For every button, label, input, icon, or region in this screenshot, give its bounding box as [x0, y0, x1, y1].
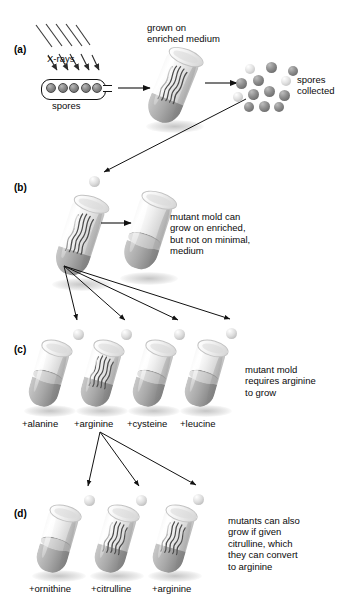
tube-label-citrulline: +citrulline [91, 583, 131, 594]
spore-panel-d [193, 494, 204, 505]
spore-panel-d [136, 495, 147, 506]
spore-panel-d [84, 495, 95, 506]
figure-canvas: (a) X-rays [0, 0, 347, 614]
panel-label-d: (d) [14, 508, 27, 519]
tube-label-ornithine: +ornithine [29, 583, 71, 594]
tube-label-arginine-d: +arginine [152, 583, 191, 594]
panel-d-caption: mutants can also grow if given citrullin… [228, 515, 300, 572]
